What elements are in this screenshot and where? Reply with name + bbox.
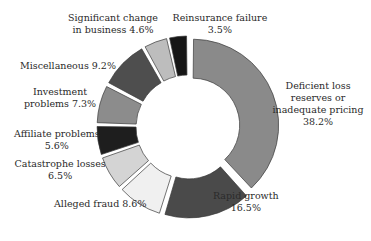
slice-label-line: 5.6% [14,140,100,152]
slice-label: Affiliate problems5.6% [14,128,100,152]
slice-label-line: 16.5% [213,202,279,214]
slice-label-line: 38.2% [273,116,364,128]
slice-label-line: Reinsurance failure [173,12,268,24]
slice-label-line: problems 7.3% [24,98,96,110]
slice-label: Deficient lossreserves orinadequate pric… [273,80,364,128]
slice-label: Rapid growth16.5% [213,190,279,214]
slice-label-line: 6.5% [15,170,106,182]
slice-label-line: Catastrophe losses [15,158,106,170]
slice-label-line: Affiliate problems [14,128,100,140]
slice-label-line: 3.5% [173,24,268,36]
slice-label: Miscellaneous 9.2% [20,60,116,72]
slice-label-line: reserves or [273,92,364,104]
slice-label: Investmentproblems 7.3% [24,86,96,110]
slice-label-line: Alleged fraud 8.6% [54,198,146,210]
slice-label-line: in business 4.6% [68,24,158,36]
slice-label-line: Rapid growth [213,190,279,202]
slice-label: Catastrophe losses6.5% [15,158,106,182]
slice-deficient-loss-reserves-or-inadequate-pricing [193,39,279,188]
slice-label: Significant changein business 4.6% [68,12,158,36]
slice-label: Alleged fraud 8.6% [54,198,146,210]
slice-label-line: Deficient loss [273,80,364,92]
slice-label-line: Investment [24,86,96,98]
slice-label-line: Significant change [68,12,158,24]
slice-label-line: inadequate pricing [273,104,364,116]
slice-label: Reinsurance failure3.5% [173,12,268,36]
slice-label-line: Miscellaneous 9.2% [20,60,116,72]
